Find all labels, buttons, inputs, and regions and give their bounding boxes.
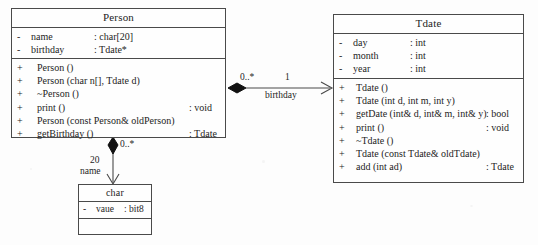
attribute-name: name <box>31 30 53 43</box>
visibility-marker: + <box>339 147 345 160</box>
attribute-row: - month : int <box>334 49 523 62</box>
class-name-tdate: Tdate <box>334 15 523 34</box>
attribute-row: - vaue : bit8 <box>79 203 151 215</box>
attributes-compartment-tdate: - day : int - month : int - year : int <box>334 34 523 79</box>
operation-name: Tdate (const Tdate& oldTdate) <box>356 147 480 160</box>
operation-return-type: : void <box>189 101 212 114</box>
visibility-marker: - <box>17 43 20 56</box>
attribute-name: day <box>353 36 367 49</box>
visibility-marker: + <box>339 107 345 120</box>
operation-name: getBirthday () <box>37 127 93 140</box>
visibility-marker: + <box>17 61 23 74</box>
operation-return-type: : void <box>486 121 509 134</box>
operation-name: print () <box>356 121 384 134</box>
operation-return-type: : bool <box>486 107 509 120</box>
operation-row: + Person (const Person& oldPerson) <box>12 114 225 127</box>
class-box-person[interactable]: Person - name : char[20] - birthday : Td… <box>11 8 226 138</box>
operation-return-type: : Tdate <box>486 160 514 173</box>
visibility-marker: + <box>17 87 23 100</box>
multiplicity-tdate-side: 1 <box>285 72 290 83</box>
attributes-compartment-person: - name : char[20] - birthday : Tdate* <box>12 28 225 59</box>
uml-class-diagram: 0..* 1 birthday 0..* 20 name Person - na… <box>0 0 538 245</box>
class-name-person: Person <box>12 9 225 28</box>
operation-row: + Tdate (const Tdate& oldTdate) <box>334 147 523 160</box>
operation-row: + getBirthday () : Tdate <box>12 127 225 140</box>
class-box-tdate[interactable]: Tdate - day : int - month : int - year :… <box>333 14 524 183</box>
visibility-marker: - <box>339 62 342 75</box>
visibility-marker: + <box>339 81 345 94</box>
operation-name: print () <box>37 101 65 114</box>
operation-row: + add (int ad) : Tdate <box>334 160 523 173</box>
operation-row: + print () : void <box>334 121 523 134</box>
visibility-marker: + <box>339 121 345 134</box>
operation-name: add (int ad) <box>356 160 402 173</box>
operation-row: + Tdate () <box>334 81 523 94</box>
role-label-birthday: birthday <box>265 90 297 101</box>
operation-return-type: : Tdate <box>189 127 217 140</box>
visibility-marker: + <box>17 101 23 114</box>
operation-row: + Tdate (int d, int m, int y) <box>334 94 523 107</box>
attribute-name: vaue <box>96 203 114 215</box>
operation-name: ~Person () <box>37 87 79 100</box>
operation-name: ~Tdate () <box>356 134 393 147</box>
attribute-row: - year : int <box>334 62 523 75</box>
multiplicity-person-side: 0..* <box>240 72 254 83</box>
multiplicity-char-side: 20 <box>90 155 100 166</box>
visibility-marker: + <box>339 94 345 107</box>
operation-row: + ~Person () <box>12 87 225 100</box>
visibility-marker: + <box>17 127 23 140</box>
attribute-type: : int <box>410 49 426 62</box>
visibility-marker: - <box>339 49 342 62</box>
operation-row: + Person (char n[], Tdate d) <box>12 74 225 87</box>
attribute-row: - day : int <box>334 36 523 49</box>
operation-row: + print () : void <box>12 101 225 114</box>
attribute-name: month <box>353 49 379 62</box>
class-box-char[interactable]: char - vaue : bit8 <box>78 184 152 235</box>
operation-row: + getDate (int& d, int& m, int& y) : boo… <box>334 107 523 120</box>
visibility-marker: + <box>339 134 345 147</box>
operation-row: + Person () <box>12 61 225 74</box>
operation-name: Person (const Person& oldPerson) <box>37 114 175 127</box>
operations-compartment-char <box>79 219 151 236</box>
role-label-name: name <box>80 166 101 177</box>
operation-name: Person (char n[], Tdate d) <box>37 74 140 87</box>
attribute-type: : Tdate* <box>94 43 127 56</box>
operation-name: Tdate (int d, int m, int y) <box>356 94 455 107</box>
visibility-marker: - <box>17 30 20 43</box>
operation-name: Tdate () <box>356 81 388 94</box>
attribute-row: - name : char[20] <box>12 30 225 43</box>
visibility-marker: - <box>339 36 342 49</box>
operation-name: getDate (int& d, int& m, int& y) <box>356 107 487 120</box>
attribute-name: year <box>353 62 370 75</box>
visibility-marker: - <box>83 203 86 215</box>
visibility-marker: + <box>17 74 23 87</box>
visibility-marker: + <box>17 114 23 127</box>
composition-diamond-person-tdate <box>228 83 246 93</box>
attributes-compartment-char: - vaue : bit8 <box>79 202 151 219</box>
operation-name: Person () <box>37 61 73 74</box>
attribute-type: : bit8 <box>124 203 144 215</box>
attribute-name: birthday <box>31 43 64 56</box>
attribute-row: - birthday : Tdate* <box>12 43 225 56</box>
class-name-char: char <box>79 185 151 202</box>
operations-compartment-person: + Person () + Person (char n[], Tdate d)… <box>12 59 225 143</box>
operation-row: + ~Tdate () <box>334 134 523 147</box>
visibility-marker: + <box>339 160 345 173</box>
attribute-type: : int <box>410 62 426 75</box>
operations-compartment-tdate: + Tdate () + Tdate (int d, int m, int y)… <box>334 79 523 176</box>
attribute-type: : int <box>410 36 426 49</box>
attribute-type: : char[20] <box>94 30 133 43</box>
